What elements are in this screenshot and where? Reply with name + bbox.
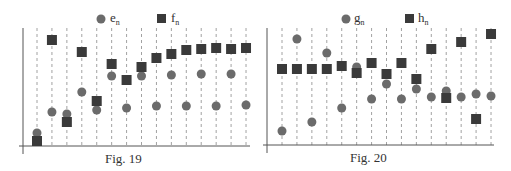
data-point-g bbox=[412, 85, 421, 94]
data-point-h bbox=[456, 37, 466, 47]
data-point-f bbox=[47, 35, 57, 45]
data-point-f bbox=[211, 43, 221, 53]
data-point-g bbox=[292, 35, 301, 44]
data-point-f bbox=[226, 44, 236, 54]
data-point-f bbox=[92, 96, 102, 106]
data-point-g bbox=[278, 127, 287, 136]
legend-square-icon bbox=[405, 14, 414, 23]
data-point-e bbox=[197, 70, 206, 79]
legend-circle-icon bbox=[342, 15, 351, 24]
data-point-e bbox=[182, 102, 191, 111]
data-point-g bbox=[337, 104, 346, 113]
data-point-e bbox=[137, 72, 146, 81]
data-point-f bbox=[32, 136, 42, 146]
data-point-h bbox=[337, 61, 347, 71]
data-point-h bbox=[411, 74, 421, 84]
data-point-h bbox=[486, 29, 496, 39]
data-point-h bbox=[382, 69, 392, 79]
data-point-f bbox=[77, 47, 87, 57]
data-point-g bbox=[367, 95, 376, 104]
data-point-e bbox=[167, 71, 176, 80]
data-point-f bbox=[196, 44, 206, 54]
data-point-e bbox=[92, 106, 101, 115]
data-point-g bbox=[457, 93, 466, 102]
data-point-e bbox=[227, 70, 236, 79]
data-point-h bbox=[277, 64, 287, 74]
figure-caption: Fig. 20 bbox=[350, 150, 387, 165]
legend-square-icon bbox=[157, 14, 166, 23]
legend: en fn bbox=[97, 10, 180, 27]
data-point-e bbox=[47, 108, 56, 117]
data-point-h bbox=[292, 64, 302, 74]
data-point-e bbox=[77, 88, 86, 97]
legend-label-h: hn bbox=[418, 10, 429, 27]
data-point-f bbox=[62, 117, 72, 127]
data-point-f bbox=[241, 43, 251, 53]
legend-label-g: gn bbox=[354, 10, 365, 27]
data-point-h bbox=[307, 64, 317, 74]
data-point-g bbox=[307, 118, 316, 127]
data-point-g bbox=[472, 90, 481, 99]
data-point-g bbox=[487, 92, 496, 101]
data-point-f bbox=[122, 75, 132, 85]
data-point-g bbox=[382, 80, 391, 89]
data-point-e bbox=[242, 101, 251, 110]
figure-19: en fn Fig. 19 bbox=[19, 10, 251, 166]
data-point-h bbox=[471, 114, 481, 124]
data-point-h bbox=[441, 93, 451, 103]
data-point-e bbox=[107, 72, 116, 81]
figure-caption: Fig. 19 bbox=[105, 151, 142, 166]
data-point-h bbox=[396, 58, 406, 68]
legend-label-f: fn bbox=[171, 10, 179, 27]
data-point-g bbox=[322, 49, 331, 58]
figure-20: gn hn Fig. 20 bbox=[263, 10, 496, 165]
data-point-e bbox=[212, 102, 221, 111]
legend-circle-icon bbox=[97, 15, 106, 24]
legend-label-e: en bbox=[110, 10, 120, 27]
data-point-h bbox=[352, 68, 362, 78]
data-point-f bbox=[181, 45, 191, 55]
data-point-h bbox=[367, 58, 377, 68]
data-point-f bbox=[107, 59, 117, 69]
data-point-f bbox=[166, 49, 176, 59]
data-point-f bbox=[137, 62, 147, 72]
data-point-h bbox=[322, 64, 332, 74]
legend: gn hn bbox=[342, 10, 429, 27]
figure-canvas: en fn Fig. 19 gn hn Fig. 20 bbox=[0, 0, 511, 171]
data-point-e bbox=[152, 102, 161, 111]
data-point-e bbox=[122, 104, 131, 113]
data-point-h bbox=[426, 44, 436, 54]
data-point-f bbox=[151, 53, 161, 63]
data-point-g bbox=[397, 95, 406, 104]
data-point-g bbox=[427, 93, 436, 102]
